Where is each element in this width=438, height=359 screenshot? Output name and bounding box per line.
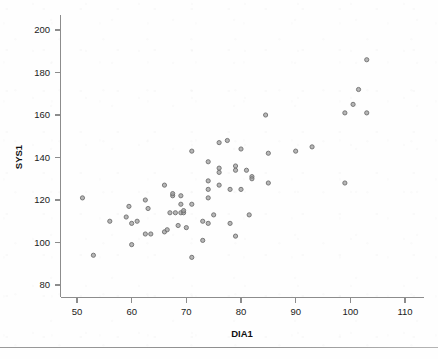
data-point bbox=[266, 151, 270, 155]
data-point bbox=[351, 102, 355, 106]
data-point bbox=[310, 145, 314, 149]
data-point bbox=[228, 221, 232, 225]
data-point bbox=[365, 111, 369, 115]
data-point bbox=[179, 202, 183, 206]
data-point bbox=[250, 177, 254, 181]
data-point bbox=[225, 138, 229, 142]
data-point bbox=[217, 170, 221, 174]
data-point bbox=[239, 187, 243, 191]
data-point bbox=[190, 255, 194, 259]
x-axis-title: DIA1 bbox=[231, 328, 253, 339]
y-tick-label: 160 bbox=[34, 109, 50, 120]
data-point bbox=[244, 168, 248, 172]
data-point bbox=[173, 211, 177, 215]
data-point bbox=[206, 160, 210, 164]
y-axis-ticks: 80100120140160180200 bbox=[34, 24, 60, 290]
data-point bbox=[201, 238, 205, 242]
x-tick-label: 110 bbox=[397, 306, 412, 317]
data-point bbox=[233, 164, 237, 168]
data-point bbox=[184, 226, 188, 230]
data-point bbox=[217, 141, 221, 145]
x-axis-ticks: 5060708090100110 bbox=[72, 298, 413, 318]
data-point bbox=[143, 232, 147, 236]
scatter-plot-svg: 80100120140160180200 5060708090100110 DI… bbox=[0, 0, 438, 359]
data-point bbox=[130, 221, 134, 225]
x-tick-label: 100 bbox=[342, 306, 358, 317]
y-axis-title: SYS1 bbox=[13, 144, 24, 169]
y-tick-label: 100 bbox=[34, 237, 50, 248]
x-tick-label: 90 bbox=[290, 306, 301, 317]
data-point bbox=[217, 183, 221, 187]
data-point bbox=[124, 215, 128, 219]
data-point bbox=[179, 194, 183, 198]
data-point bbox=[149, 232, 153, 236]
data-point bbox=[91, 253, 95, 257]
data-point bbox=[108, 219, 112, 223]
data-point bbox=[130, 243, 134, 247]
data-point bbox=[239, 147, 243, 151]
data-point bbox=[206, 179, 210, 183]
x-tick-label: 80 bbox=[236, 306, 247, 317]
data-point bbox=[266, 181, 270, 185]
data-point bbox=[143, 198, 147, 202]
x-tick-label: 50 bbox=[72, 306, 83, 317]
x-tick-label: 70 bbox=[181, 306, 192, 317]
data-point bbox=[171, 192, 175, 196]
y-tick-label: 200 bbox=[34, 24, 50, 35]
data-point bbox=[206, 187, 210, 191]
data-point bbox=[182, 209, 186, 213]
data-point bbox=[233, 168, 237, 172]
data-point bbox=[206, 221, 210, 225]
y-tick-label: 140 bbox=[34, 152, 50, 163]
data-point bbox=[247, 213, 251, 217]
data-points-layer bbox=[80, 58, 368, 260]
data-point bbox=[217, 166, 221, 170]
data-point bbox=[206, 196, 210, 200]
data-point bbox=[146, 206, 150, 210]
data-point bbox=[190, 202, 194, 206]
data-point bbox=[264, 113, 268, 117]
data-point bbox=[135, 219, 139, 223]
scatter-plot-figure: 80100120140160180200 5060708090100110 DI… bbox=[0, 0, 438, 359]
y-tick-label: 180 bbox=[34, 67, 50, 78]
data-point bbox=[294, 149, 298, 153]
data-point bbox=[165, 228, 169, 232]
data-point bbox=[233, 234, 237, 238]
data-point bbox=[365, 58, 369, 62]
data-point bbox=[190, 149, 194, 153]
data-point bbox=[176, 223, 180, 227]
y-tick-label: 120 bbox=[34, 194, 50, 205]
data-point bbox=[80, 196, 84, 200]
data-point bbox=[356, 87, 360, 91]
data-point bbox=[212, 213, 216, 217]
y-tick-label: 80 bbox=[39, 279, 50, 290]
footer-divider bbox=[0, 347, 438, 348]
x-tick-label: 60 bbox=[126, 306, 137, 317]
data-point bbox=[168, 211, 172, 215]
data-point bbox=[127, 204, 131, 208]
data-point bbox=[162, 183, 166, 187]
data-point bbox=[343, 111, 347, 115]
data-point bbox=[201, 219, 205, 223]
data-point bbox=[343, 181, 347, 185]
data-point bbox=[228, 187, 232, 191]
